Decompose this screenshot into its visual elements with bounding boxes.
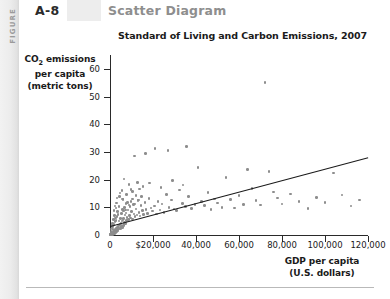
y-axis-label-line1-pre: CO bbox=[25, 54, 39, 64]
scatter-point bbox=[187, 195, 190, 198]
scatter-point bbox=[157, 200, 160, 203]
scatter-point bbox=[133, 155, 136, 158]
scatter-point bbox=[117, 213, 120, 216]
scatter-point bbox=[138, 188, 141, 191]
scatter-point bbox=[167, 149, 170, 152]
scatter-point bbox=[116, 197, 119, 200]
scatter-point bbox=[140, 195, 143, 198]
scatter-point bbox=[332, 172, 335, 175]
chart-title: Standard of Living and Carbon Emissions,… bbox=[110, 30, 375, 41]
scatter-point bbox=[182, 184, 185, 187]
scatter-point bbox=[168, 206, 171, 209]
scatter-point bbox=[229, 198, 232, 201]
figure-page: FIGURE A-8 Scatter Diagram Standard of L… bbox=[0, 0, 390, 299]
scatter-point bbox=[136, 214, 139, 217]
scatter-point bbox=[145, 208, 148, 211]
scatter-point bbox=[150, 207, 153, 210]
scatter-point bbox=[154, 147, 157, 150]
y-tick-label: 60 bbox=[70, 64, 100, 74]
scatter-point bbox=[144, 152, 147, 155]
scatter-point bbox=[146, 212, 149, 215]
scatter-point bbox=[161, 203, 164, 206]
y-tick-label: 10 bbox=[70, 202, 100, 212]
scatter-point bbox=[125, 193, 128, 196]
scatter-point bbox=[148, 182, 151, 185]
scatter-point bbox=[307, 207, 310, 210]
scatter-point bbox=[153, 205, 156, 208]
scatter-point bbox=[207, 191, 210, 194]
scatter-point bbox=[119, 217, 122, 220]
scatter-point bbox=[148, 197, 151, 200]
scatter-point bbox=[259, 204, 262, 207]
scatter-point bbox=[246, 168, 249, 171]
scatter-point bbox=[315, 196, 318, 199]
figure-header-title: Scatter Diagram bbox=[108, 3, 226, 18]
scatter-point bbox=[123, 178, 126, 181]
scatter-point bbox=[210, 208, 213, 211]
x-tick-label: 120,000 bbox=[338, 240, 390, 250]
scatter-point bbox=[116, 215, 119, 218]
x-axis-label-line1: GDP per capita bbox=[258, 256, 386, 268]
scatter-point bbox=[128, 183, 131, 186]
scatter-point bbox=[225, 176, 228, 179]
scatter-point bbox=[289, 193, 292, 196]
scatter-point bbox=[131, 198, 134, 201]
scatter-point bbox=[264, 81, 267, 84]
scatter-point bbox=[238, 194, 241, 197]
scatter-point bbox=[111, 232, 114, 235]
scatter-point bbox=[272, 191, 275, 194]
scatter-point bbox=[298, 200, 301, 203]
scatter-point bbox=[118, 205, 121, 208]
scatter-point bbox=[190, 207, 193, 210]
scatter-point bbox=[276, 197, 279, 200]
scatter-point bbox=[142, 185, 145, 188]
scatter-point bbox=[324, 201, 327, 204]
scatter-point bbox=[135, 194, 138, 197]
figure-spine-label: FIGURE bbox=[9, 0, 17, 52]
scatter-point bbox=[151, 210, 154, 213]
scatter-point bbox=[175, 209, 178, 212]
scatter-point bbox=[358, 199, 361, 202]
y-axis-label-line1-post: emissions bbox=[43, 54, 95, 64]
scatter-point bbox=[185, 145, 188, 148]
y-tick-label: 40 bbox=[70, 119, 100, 129]
scatter-point bbox=[127, 209, 130, 212]
scatter-point bbox=[120, 212, 123, 215]
scatter-point bbox=[141, 209, 144, 212]
scatter-point bbox=[268, 170, 271, 173]
figure-header: A-8 Scatter Diagram bbox=[19, 0, 390, 21]
scatter-point bbox=[178, 189, 181, 192]
scatter-point bbox=[216, 202, 219, 205]
figure-spine: FIGURE bbox=[0, 0, 19, 299]
scatter-point bbox=[125, 212, 128, 215]
footer-rule bbox=[26, 287, 374, 288]
scatter-point bbox=[160, 186, 163, 189]
scatter-point bbox=[138, 211, 141, 214]
x-axis-label-line2: (U.S. dollars) bbox=[258, 268, 386, 280]
scatter-point bbox=[171, 179, 174, 182]
scatter-point bbox=[255, 199, 258, 202]
scatter-point bbox=[341, 194, 344, 197]
scatter-point bbox=[130, 200, 133, 203]
scatter-point bbox=[115, 219, 118, 222]
scatter-point bbox=[115, 202, 118, 205]
scatter-point bbox=[140, 204, 143, 207]
scatter-point bbox=[350, 205, 353, 208]
scatter-point bbox=[144, 201, 147, 204]
scatter-point bbox=[242, 203, 245, 206]
scatter-point bbox=[181, 202, 184, 205]
trend-line bbox=[110, 157, 368, 227]
scatter-point bbox=[135, 208, 138, 211]
scatter-point bbox=[159, 209, 162, 212]
scatter-point bbox=[142, 213, 145, 216]
figure-number: A-8 bbox=[35, 3, 59, 18]
scatter-point bbox=[165, 193, 168, 196]
y-tick-label: 30 bbox=[70, 147, 100, 157]
y-tick-label: 20 bbox=[70, 175, 100, 185]
scatter-point bbox=[170, 199, 173, 202]
scatter-point bbox=[221, 206, 224, 209]
scatter-point bbox=[121, 189, 124, 192]
scatter-plot-area bbox=[110, 55, 368, 235]
scatter-point bbox=[133, 203, 136, 206]
scatter-point bbox=[197, 166, 200, 169]
